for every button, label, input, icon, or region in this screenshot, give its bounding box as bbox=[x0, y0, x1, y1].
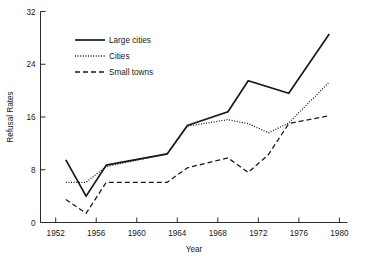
x-tick-label: 1976 bbox=[290, 229, 309, 238]
y-axis-ticks bbox=[41, 12, 46, 223]
series-line-small-towns bbox=[66, 116, 329, 214]
x-tick-label: 1964 bbox=[168, 229, 187, 238]
line-chart: 08162432 1952195619601964196819721976198… bbox=[0, 0, 373, 256]
chart-legend: Large citiesCitiesSmall towns bbox=[75, 36, 153, 77]
y-tick-label: 24 bbox=[26, 60, 36, 69]
x-axis-title: Year bbox=[186, 245, 203, 254]
x-tick-label: 1952 bbox=[47, 229, 66, 238]
legend-label-large-cities: Large cities bbox=[109, 36, 151, 45]
y-tick-label: 0 bbox=[31, 219, 36, 228]
y-tick-label: 16 bbox=[26, 113, 36, 122]
x-tick-label: 1968 bbox=[209, 229, 228, 238]
x-tick-label: 1980 bbox=[330, 229, 349, 238]
x-tick-label: 1972 bbox=[249, 229, 268, 238]
x-tick-label: 1956 bbox=[87, 229, 106, 238]
x-axis-tick-labels: 19521956196019641968197219761980 bbox=[47, 229, 349, 238]
chart-figure: 08162432 1952195619601964196819721976198… bbox=[0, 0, 373, 256]
series-group bbox=[66, 34, 329, 213]
x-axis-ticks bbox=[56, 218, 340, 223]
y-axis-title: Refusal Rates bbox=[6, 91, 15, 142]
y-tick-label: 32 bbox=[26, 8, 36, 17]
legend-label-small-towns: Small towns bbox=[109, 68, 153, 77]
series-line-cities bbox=[66, 82, 329, 182]
y-axis-tick-labels: 08162432 bbox=[26, 8, 36, 228]
x-tick-label: 1960 bbox=[128, 229, 147, 238]
legend-label-cities: Cities bbox=[109, 52, 129, 61]
series-line-large-cities bbox=[66, 34, 329, 196]
y-tick-label: 8 bbox=[31, 166, 36, 175]
